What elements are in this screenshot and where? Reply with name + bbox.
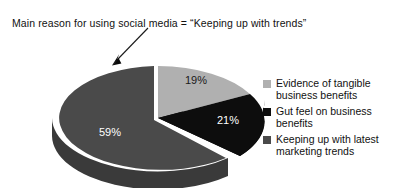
pie-label-21: 21%: [217, 114, 239, 126]
pie-label-19: 19%: [185, 74, 207, 86]
pie-label-59: 59%: [99, 126, 121, 138]
legend-item-label: Gut feel on business benefits: [276, 105, 394, 130]
legend-item-gut-feel-on-business-benefits[interactable]: Gut feel on business benefits: [263, 105, 399, 130]
legend-item-keeping-up-with-latest-marketing-trends[interactable]: Keeping up with latest marketing trends: [263, 133, 399, 158]
legend-item-label: Keeping up with latest marketing trends: [276, 133, 394, 158]
legend-swatch-icon: [263, 80, 271, 88]
pie-graphic: 19% 21% 59%: [44, 52, 274, 188]
legend-swatch-icon: [263, 108, 271, 116]
legend-swatch-icon: [263, 136, 271, 144]
pie-chart-figure: Main reason for using social media = “Ke…: [0, 0, 399, 196]
legend-item-evidence-of-tangible-business-benefits[interactable]: Evidence of tangible business benefits: [263, 77, 399, 102]
chart-legend: Evidence of tangible business benefits G…: [263, 77, 399, 160]
legend-item-label: Evidence of tangible business benefits: [276, 77, 394, 102]
